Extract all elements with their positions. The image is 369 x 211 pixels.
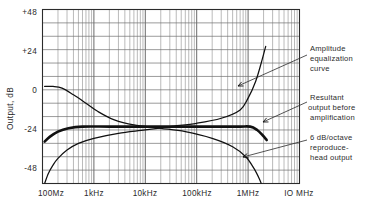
- annotation-line: head output: [310, 153, 353, 162]
- y-tick-label: 0: [32, 86, 37, 95]
- horizontal-gridlines: [43, 23, 300, 170]
- y-tick-label: +24: [22, 47, 37, 56]
- x-tick-label: 1kHz: [84, 189, 104, 198]
- plot-frame: [43, 10, 300, 184]
- y-axis-tick-labels: +48 +24 0 -24 -48: [22, 8, 37, 173]
- annotation-line: equalization: [310, 54, 353, 63]
- vertical-major-gridlines: [43, 10, 300, 184]
- x-tick-label: 1MHz: [237, 189, 260, 198]
- annotation-line: reproduce-: [310, 143, 349, 152]
- y-axis-title: Output, dB: [6, 87, 15, 130]
- annotation-line: curve: [310, 64, 330, 73]
- x-tick-label: 100kHz: [182, 189, 212, 198]
- x-tick-label: IO MHz: [284, 189, 314, 198]
- figure-container: +48 +24 0 -24 -48 Output, dB 100Mz 1kHz …: [0, 0, 369, 211]
- annotation-amplitude-equalization: Amplitude equalization curve: [310, 44, 353, 73]
- curve: [45, 86, 263, 187]
- y-tick-label: -48: [24, 164, 37, 173]
- x-tick-label: 10kHz: [133, 189, 158, 198]
- y-tick-label: -24: [24, 125, 37, 134]
- annotation-line: output before: [308, 103, 355, 112]
- x-axis-tick-labels: 100Mz 1kHz 10kHz 100kHz 1MHz IO MHz: [38, 189, 314, 198]
- amplitude-equalization-chart: +48 +24 0 -24 -48 Output, dB 100Mz 1kHz …: [0, 0, 369, 211]
- x-tick-label: 100Mz: [38, 189, 64, 198]
- annotation-line: amplification: [310, 113, 355, 122]
- annotation-line: Resultant: [310, 93, 345, 102]
- annotation-reproduce-head-output: 6 dB/octave reproduce- head output: [310, 133, 353, 162]
- annotation-line: 6 dB/octave: [310, 133, 352, 142]
- annotation-line: Amplitude: [310, 44, 346, 53]
- y-tick-label: +48: [22, 8, 37, 17]
- annotation-resultant-output: Resultant output before amplification: [308, 93, 355, 122]
